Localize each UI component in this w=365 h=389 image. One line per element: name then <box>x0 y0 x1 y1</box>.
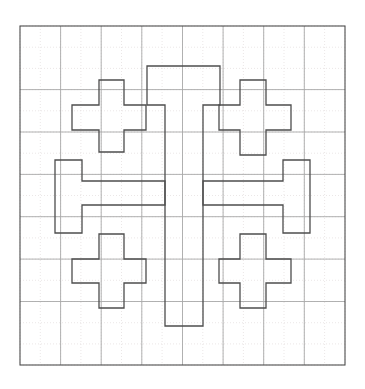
jerusalem-cross-figure <box>0 0 365 389</box>
figure-canvas <box>0 0 365 389</box>
